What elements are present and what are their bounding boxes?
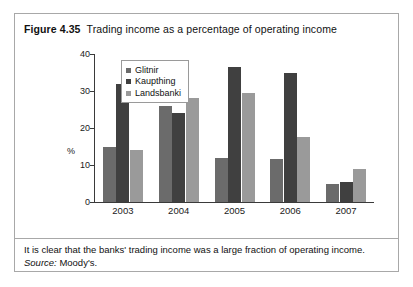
figure-title: Figure 4.35 Trading income as a percenta… bbox=[24, 23, 337, 35]
bar-group bbox=[215, 54, 255, 202]
source-line: Source: Moody's. bbox=[24, 256, 392, 269]
bar-kaupthing-2004 bbox=[172, 113, 185, 202]
source-value: Moody's. bbox=[59, 257, 97, 268]
bar-glitnir-2004 bbox=[159, 106, 172, 202]
chart-plot-region: % 010203040 20032004200520062007 Glitnir… bbox=[15, 42, 400, 230]
caption-area: It is clear that the banks' trading inco… bbox=[24, 243, 392, 269]
bar-group bbox=[270, 54, 310, 202]
figure-box: Figure 4.35 Trading income as a percenta… bbox=[14, 13, 399, 272]
bar-group bbox=[326, 54, 366, 202]
y-axis-tick-label: 20 bbox=[80, 124, 90, 133]
y-axis-tick-labels: 010203040 bbox=[63, 42, 90, 202]
bar-kaupthing-2005 bbox=[228, 67, 241, 202]
bar-landsbanki-2005 bbox=[242, 93, 255, 202]
source-label: Source: bbox=[24, 257, 57, 268]
x-axis-tick-label: 2003 bbox=[112, 205, 133, 216]
legend-swatch-icon bbox=[126, 79, 131, 84]
bar-landsbanki-2006 bbox=[297, 137, 310, 202]
legend-item-landsbanki: Landsbanki bbox=[126, 88, 181, 99]
y-axis-tick-label: 10 bbox=[80, 161, 90, 170]
y-axis-tick-mark bbox=[90, 202, 94, 203]
bar-glitnir-2007 bbox=[326, 184, 339, 203]
legend-label: Kaupthing bbox=[135, 76, 176, 87]
x-axis-tick-labels: 20032004200520062007 bbox=[95, 205, 374, 221]
x-axis-tick-label: 2007 bbox=[336, 205, 357, 216]
caption-text: It is clear that the banks' trading inco… bbox=[24, 243, 392, 256]
x-axis-tick-label: 2005 bbox=[224, 205, 245, 216]
figure-title-text: Trading income as a percentage of operat… bbox=[87, 23, 337, 35]
y-axis-tick-mark bbox=[90, 91, 94, 92]
y-axis-tick-mark bbox=[90, 128, 94, 129]
figure-number: Figure 4.35 bbox=[24, 23, 81, 35]
chart-legend: GlitnirKaupthingLandsbanki bbox=[121, 60, 189, 103]
y-axis-tick-label: 30 bbox=[80, 87, 90, 96]
x-axis-line bbox=[94, 202, 374, 203]
x-axis-tick-label: 2006 bbox=[280, 205, 301, 216]
legend-label: Landsbanki bbox=[135, 88, 181, 99]
legend-item-kaupthing: Kaupthing bbox=[126, 76, 181, 87]
bar-landsbanki-2003 bbox=[130, 150, 143, 202]
legend-swatch-icon bbox=[126, 68, 131, 73]
bar-landsbanki-2004 bbox=[186, 98, 199, 202]
legend-item-glitnir: Glitnir bbox=[126, 65, 181, 76]
caption-divider bbox=[15, 238, 398, 239]
legend-swatch-icon bbox=[126, 91, 131, 96]
bar-glitnir-2003 bbox=[103, 147, 116, 203]
x-axis-tick-label: 2004 bbox=[168, 205, 189, 216]
bar-glitnir-2006 bbox=[270, 159, 283, 202]
y-axis-tick-mark bbox=[90, 165, 94, 166]
legend-label: Glitnir bbox=[135, 65, 159, 76]
y-axis-tick-mark bbox=[90, 54, 94, 55]
bar-kaupthing-2007 bbox=[340, 182, 353, 202]
y-axis-tick-label: 40 bbox=[80, 50, 90, 59]
bar-kaupthing-2006 bbox=[284, 73, 297, 203]
bar-glitnir-2005 bbox=[215, 158, 228, 202]
bar-landsbanki-2007 bbox=[353, 169, 366, 202]
